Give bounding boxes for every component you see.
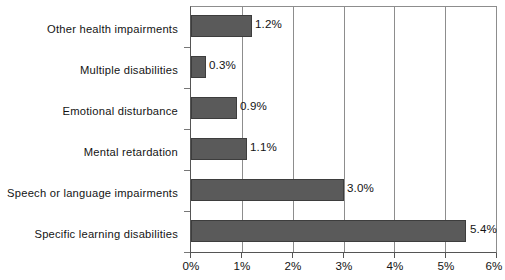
category-label: Multiple disabilities xyxy=(80,65,178,76)
bar-mental-retardation xyxy=(191,138,247,160)
xtick-label-0: 0% xyxy=(183,260,200,272)
xtick-3 xyxy=(343,253,344,258)
xtick-5 xyxy=(445,253,446,258)
xtick-6 xyxy=(496,253,497,258)
xtick-label-6: 6% xyxy=(486,260,503,272)
gridline-2pct xyxy=(293,7,294,252)
category-label: Specific learning disabilities xyxy=(34,229,178,240)
plot-area xyxy=(190,6,497,253)
category-label: Speech or language impairments xyxy=(7,188,178,199)
xtick-2 xyxy=(292,253,293,258)
bar-specific-learning-disabilities xyxy=(191,220,466,242)
xtick-4 xyxy=(394,253,395,258)
xtick-label-1: 1% xyxy=(234,260,251,272)
xtick-1 xyxy=(241,253,242,258)
value-label-other-health-impairments: 1.2% xyxy=(255,18,282,30)
gridline-5pct xyxy=(445,7,446,252)
category-label: Emotional disturbance xyxy=(63,106,178,117)
gridline-4pct xyxy=(394,7,395,252)
xtick-label-3: 3% xyxy=(336,260,353,272)
value-label-specific-learning-disabilities: 5.4% xyxy=(470,223,497,235)
gridline-1pct xyxy=(242,7,243,252)
xtick-label-4: 4% xyxy=(387,260,404,272)
bar-multiple-disabilities xyxy=(191,56,206,78)
gridline-3pct xyxy=(344,7,345,252)
bar-emotional-disturbance xyxy=(191,97,237,119)
bar-chart: Other health impairments Multiple disabi… xyxy=(0,0,505,280)
value-label-speech-or-language-impairments: 3.0% xyxy=(347,182,374,194)
bar-speech-or-language-impairments xyxy=(191,179,344,201)
category-label: Other health impairments xyxy=(47,24,178,35)
value-label-emotional-disturbance: 0.9% xyxy=(240,100,267,112)
xtick-0 xyxy=(190,253,191,258)
value-label-multiple-disabilities: 0.3% xyxy=(209,59,236,71)
value-label-mental-retardation: 1.1% xyxy=(250,141,277,153)
bar-other-health-impairments xyxy=(191,15,252,37)
category-label: Mental retardation xyxy=(84,147,178,158)
category-axis-labels: Other health impairments Multiple disabi… xyxy=(0,6,183,253)
xtick-label-2: 2% xyxy=(285,260,302,272)
xtick-label-5: 5% xyxy=(438,260,455,272)
